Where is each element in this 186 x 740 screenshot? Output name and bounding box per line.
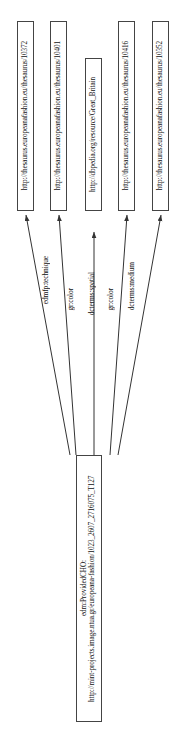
node-label: http://thesaurus.europeanafashion.eu/the… bbox=[157, 41, 165, 190]
target-node-10416[interactable]: http://thesaurus.europeanafashion.eu/the… bbox=[118, 21, 135, 211]
edge-label-color-1: gr:color bbox=[66, 288, 75, 311]
edge-label-medium: dcterms:medium bbox=[127, 262, 136, 310]
node-label: http://thesaurus.europeanafashion.eu/the… bbox=[55, 41, 63, 190]
edge-line-color-2 bbox=[110, 215, 127, 455]
edge-line-medium bbox=[118, 215, 161, 455]
edge-line-color-1 bbox=[59, 215, 76, 455]
source-node-line-2: http://mint-projects.image.ntua.gr/europ… bbox=[89, 456, 97, 721]
edge-label-spatial: dcterms:spatial bbox=[87, 272, 96, 315]
edge-line-technique bbox=[26, 215, 70, 455]
edge-label-technique: edmfp:technique bbox=[41, 256, 50, 304]
target-node-10352[interactable]: http://thesaurus.europeanafashion.eu/the… bbox=[152, 21, 169, 211]
target-node-great-britain[interactable]: http://dbpedia.org/resource/Great_Britai… bbox=[85, 58, 102, 211]
node-label: http://thesaurus.europeanafashion.eu/the… bbox=[22, 41, 30, 190]
edge-label-color-2: gr:color bbox=[106, 288, 115, 311]
source-node[interactable]: edm:ProvidedCHO: http://mint-projects.im… bbox=[76, 455, 102, 722]
target-node-10372[interactable]: http://thesaurus.europeanafashion.eu/the… bbox=[17, 21, 34, 211]
source-node-label: edm:ProvidedCHO: http://mint-projects.im… bbox=[81, 456, 96, 721]
node-label: http://dbpedia.org/resource/Great_Britai… bbox=[90, 77, 98, 192]
target-node-10401[interactable]: http://thesaurus.europeanafashion.eu/the… bbox=[50, 21, 67, 211]
node-label: http://thesaurus.europeanafashion.eu/the… bbox=[123, 41, 131, 190]
graph-canvas: http://thesaurus.europeanafashion.eu/the… bbox=[0, 0, 186, 740]
